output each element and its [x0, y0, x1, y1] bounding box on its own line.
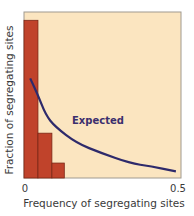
histogram-bar [52, 163, 64, 178]
x-tick-0-5: 0.5 [170, 183, 186, 194]
x-tick-0: 0 [22, 183, 28, 194]
histogram-bar [24, 20, 38, 178]
x-axis-label: Frequency of segregating sites [23, 197, 184, 209]
histogram-bar [38, 133, 52, 178]
expected-annotation: Expected [72, 115, 124, 126]
chart-canvas [0, 0, 194, 216]
y-axis-label: Fraction of segregating sites [3, 25, 15, 174]
